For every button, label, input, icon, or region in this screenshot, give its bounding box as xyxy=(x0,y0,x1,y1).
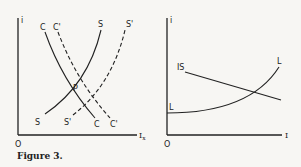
right-origin-label: O xyxy=(164,140,170,149)
curve-is-label: IS xyxy=(177,63,184,72)
figure-3: i O Ix C C C' C' S S S' S' P i O I IS L xyxy=(0,0,301,167)
curve-c-prime-top-label: C' xyxy=(53,23,61,32)
curve-c-top-label: C xyxy=(40,23,46,32)
left-y-axis-label: i xyxy=(21,16,23,25)
curve-c-bottom-label: C xyxy=(94,120,100,129)
right-x-axis-label: I xyxy=(285,131,288,140)
curve-s-prime-top-label: S' xyxy=(126,20,133,29)
curve-s-prime-bottom-label: S' xyxy=(64,118,71,127)
curve-s-bottom-label: S xyxy=(35,118,40,127)
left-x-axis-label: Ix xyxy=(139,131,146,141)
intersection-p-label: P xyxy=(73,84,78,93)
curve-s-prime xyxy=(73,30,125,115)
figure-caption: Figure 3. xyxy=(17,151,63,161)
left-origin-label: O xyxy=(15,140,21,149)
left-panel: i O Ix C C C' C' S S S' S' P xyxy=(15,16,146,149)
curve-l-end-label: L xyxy=(277,57,282,66)
curve-is xyxy=(185,72,281,100)
curve-s-top-label: S xyxy=(98,20,103,29)
curve-l-start-label: L xyxy=(169,103,174,112)
curve-s xyxy=(45,30,101,114)
right-y-axis-label: i xyxy=(170,16,172,25)
right-panel: i O I IS L L xyxy=(164,16,288,149)
curve-c xyxy=(45,32,95,118)
curve-l xyxy=(167,67,279,113)
curve-c-prime-bottom-label: C' xyxy=(110,120,118,129)
